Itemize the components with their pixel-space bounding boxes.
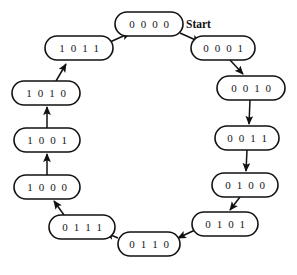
state-node-label: 1 0 0 0 (27, 181, 68, 193)
state-node-0110[interactable]: 0 1 1 0 (118, 232, 180, 256)
state-node-0010[interactable]: 0 0 1 0 (217, 76, 285, 100)
state-nodes: 0 0 0 00 0 0 10 0 1 00 0 1 10 1 0 00 1 0… (12, 12, 285, 256)
state-node-label: 0 1 0 1 (205, 218, 246, 230)
state-node-label: 0 1 1 1 (62, 221, 103, 233)
transition-edge-s2-to-s3 (249, 100, 250, 124)
state-diagram-canvas: 0 0 0 00 0 0 10 0 1 00 0 1 10 1 0 00 1 0… (0, 0, 297, 275)
state-node-label: 0 0 1 1 (227, 132, 268, 144)
state-node-0011[interactable]: 0 0 1 1 (215, 126, 279, 150)
state-node-0000[interactable]: 0 0 0 0 (115, 12, 183, 36)
transition-edge-s5-to-s6 (178, 230, 195, 238)
state-node-label: 0 0 1 0 (231, 82, 272, 94)
transition-edge-s3-to-s4 (246, 150, 247, 171)
state-node-0100[interactable]: 0 1 0 0 (212, 173, 278, 197)
state-node-label: 1 0 1 1 (59, 42, 100, 54)
state-node-1001[interactable]: 1 0 0 1 (14, 128, 80, 152)
transition-edge-s1-to-s2 (230, 60, 243, 74)
state-node-label: 0 0 0 0 (129, 18, 170, 30)
state-node-1000[interactable]: 1 0 0 0 (14, 175, 80, 199)
state-node-label: 1 0 1 0 (26, 87, 67, 99)
transition-edge-s4-to-s5 (230, 197, 240, 210)
transition-edge-s10-to-s11 (56, 64, 66, 81)
start-label: Start (186, 18, 211, 30)
state-node-label: 0 1 1 0 (129, 238, 170, 250)
state-node-label: 0 1 0 0 (225, 179, 266, 191)
state-node-1011[interactable]: 1 0 1 1 (45, 36, 113, 60)
state-diagram: 0 0 0 00 0 0 10 0 1 00 0 1 10 1 0 00 1 0… (0, 0, 297, 275)
state-node-1010[interactable]: 1 0 1 0 (12, 81, 80, 105)
state-node-0111[interactable]: 0 1 1 1 (49, 215, 115, 239)
transition-edge-s7-to-s8 (54, 201, 64, 215)
state-node-0101[interactable]: 0 1 0 1 (192, 212, 258, 236)
state-node-label: 1 0 0 1 (27, 134, 68, 146)
state-node-label: 0 0 0 1 (203, 42, 244, 54)
state-node-0001[interactable]: 0 0 0 1 (191, 36, 255, 60)
